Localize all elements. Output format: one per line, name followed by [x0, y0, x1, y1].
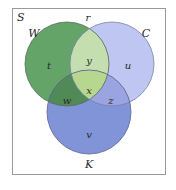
- region-label-v: v: [86, 129, 92, 140]
- region-label-w: w: [63, 95, 72, 106]
- region-label-z: z: [107, 95, 114, 106]
- venn-diagram: S r W C K t y u x w z v: [0, 0, 176, 190]
- region-label-x: x: [86, 85, 92, 96]
- set-c-label: C: [142, 27, 151, 40]
- region-label-y: y: [85, 55, 92, 66]
- set-k-label: K: [84, 158, 94, 171]
- region-label-u: u: [125, 60, 131, 71]
- set-w-label: W: [28, 27, 41, 40]
- universe-label: S: [17, 11, 25, 24]
